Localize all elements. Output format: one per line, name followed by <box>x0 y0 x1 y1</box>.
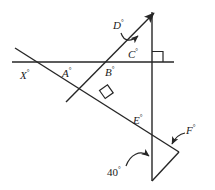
diagram-canvas <box>0 0 215 190</box>
angle-label-forty: 40° <box>107 166 121 178</box>
angle-label-f: F° <box>186 124 196 136</box>
angle-label-b: B° <box>105 66 115 78</box>
angle-label-a: A° <box>62 67 72 79</box>
angle-label-c: C° <box>128 48 138 60</box>
right-angle-mark-diagonal <box>100 85 114 99</box>
right-angle-mark-vertical <box>152 52 163 63</box>
forty-degree-arrow <box>126 153 149 166</box>
short-segment <box>152 152 179 181</box>
angle-label-e: E° <box>133 114 143 126</box>
diagonal-line <box>15 48 179 152</box>
angle-label-d: D° <box>113 19 124 31</box>
f-angle-arrow <box>172 133 185 144</box>
angle-label-x: X° <box>20 69 30 81</box>
d-angle-arrow <box>121 33 138 40</box>
geometry-diagram: X° A° B° C° D° E° F° 40° <box>0 0 215 190</box>
